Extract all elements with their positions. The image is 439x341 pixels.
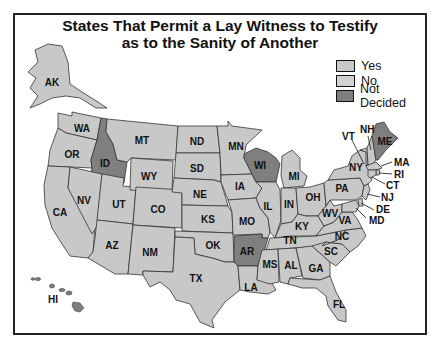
label-PA: PA bbox=[335, 183, 348, 194]
label-MI: MI bbox=[288, 171, 299, 182]
state-AK bbox=[28, 44, 107, 108]
state-RI bbox=[376, 170, 380, 175]
label-WI: WI bbox=[254, 160, 266, 171]
label-ND: ND bbox=[190, 136, 204, 147]
label-SD: SD bbox=[190, 163, 204, 174]
label-AZ: AZ bbox=[105, 240, 118, 251]
label-MA: MA bbox=[394, 157, 410, 168]
label-WY: WY bbox=[141, 171, 157, 182]
label-NM: NM bbox=[142, 247, 158, 258]
state-MD bbox=[342, 200, 359, 212]
state-MI bbox=[281, 150, 307, 188]
label-WV: WV bbox=[322, 208, 338, 219]
label-WA: WA bbox=[74, 123, 90, 134]
label-OR: OR bbox=[65, 149, 81, 160]
label-GA: GA bbox=[309, 263, 324, 274]
label-NC: NC bbox=[335, 231, 349, 242]
label-DE: DE bbox=[376, 204, 390, 215]
label-UT: UT bbox=[112, 199, 125, 210]
label-KS: KS bbox=[201, 214, 215, 225]
label-AK: AK bbox=[45, 77, 60, 88]
label-VA: VA bbox=[338, 215, 351, 226]
label-SC: SC bbox=[324, 246, 338, 257]
label-NE: NE bbox=[193, 189, 207, 200]
label-TN: TN bbox=[283, 235, 296, 246]
label-OH: OH bbox=[306, 192, 321, 203]
label-ME: ME bbox=[378, 136, 393, 147]
label-NV: NV bbox=[77, 195, 91, 206]
label-FL: FL bbox=[333, 299, 345, 310]
label-HI: HI bbox=[48, 294, 58, 305]
label-MT: MT bbox=[135, 135, 149, 146]
label-RI: RI bbox=[394, 169, 404, 180]
label-NJ: NJ bbox=[381, 192, 394, 203]
label-CA: CA bbox=[53, 207, 67, 218]
label-LA: LA bbox=[244, 282, 257, 293]
label-IL: IL bbox=[264, 201, 273, 212]
label-MD: MD bbox=[369, 215, 385, 226]
label-IA: IA bbox=[235, 181, 245, 192]
label-IN: IN bbox=[284, 199, 294, 210]
label-CO: CO bbox=[151, 204, 166, 215]
label-MS: MS bbox=[263, 259, 278, 270]
label-NH: NH bbox=[360, 124, 374, 135]
label-MN: MN bbox=[228, 141, 244, 152]
label-VT: VT bbox=[342, 131, 355, 142]
label-ID: ID bbox=[100, 158, 110, 169]
state-CT bbox=[368, 170, 376, 178]
label-AR: AR bbox=[240, 246, 255, 257]
label-KY: KY bbox=[295, 221, 309, 232]
us-map: AK HI WA OR CA ID NV UT AZ MT WY CO NM N… bbox=[0, 0, 439, 341]
label-AL: AL bbox=[284, 260, 297, 271]
label-CT: CT bbox=[386, 180, 399, 191]
label-TX: TX bbox=[190, 273, 203, 284]
label-NY: NY bbox=[349, 162, 363, 173]
label-MO: MO bbox=[239, 216, 255, 227]
label-OK: OK bbox=[206, 240, 222, 251]
